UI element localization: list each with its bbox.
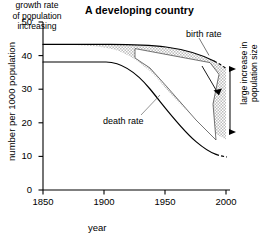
death-rate-leader-line	[141, 95, 160, 115]
increase-annotation-line-1: large increase in	[239, 36, 249, 110]
y-tick-label-40: 40	[12, 50, 32, 61]
birth-rate-leader-line	[199, 38, 209, 55]
y-tick-label-50: 50	[12, 16, 32, 27]
chart-title: A developing country	[0, 4, 279, 16]
y-tick-label-0: 0	[12, 184, 32, 195]
death-rate-curve-dashed-end	[216, 154, 227, 157]
y-tick-label-10: 10	[12, 150, 32, 161]
x-tick-label-1950: 1950	[145, 196, 185, 207]
birth-rate-label: birth rate	[186, 29, 222, 39]
x-axis-label: year	[88, 222, 106, 233]
population-increase-annotation: large increase in population size	[239, 36, 259, 110]
death-rate-label: death rate	[103, 116, 144, 126]
y-tick-label-20: 20	[12, 117, 32, 128]
growth-caption-cutout	[135, 49, 219, 140]
x-tick-label-1900: 1900	[84, 196, 124, 207]
chart-figure: A developing country number per 1000 pop…	[0, 0, 279, 241]
x-tick-label-2000: 2000	[206, 196, 246, 207]
increase-annotation-line-2: population size	[249, 36, 259, 110]
x-tick-label-1850: 1850	[23, 196, 63, 207]
y-tick-label-30: 30	[12, 83, 32, 94]
